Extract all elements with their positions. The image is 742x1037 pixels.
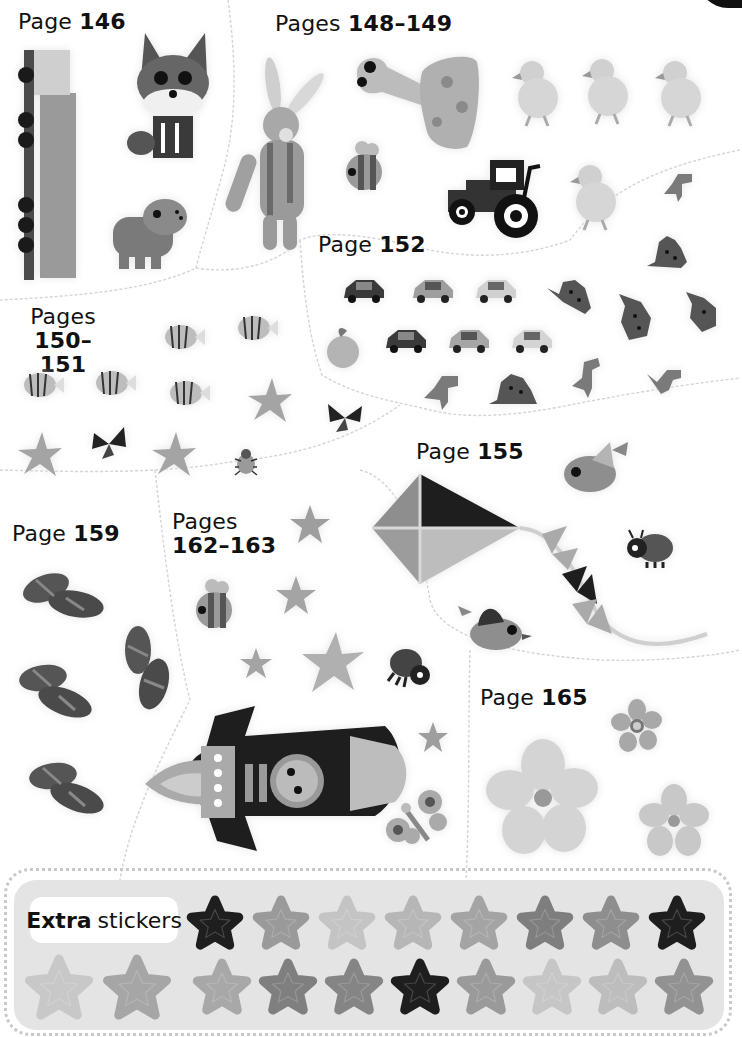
flower-medium-sticker[interactable] [640,785,708,857]
fox-sticker[interactable] [125,28,220,158]
t-rex-sticker[interactable] [660,170,694,204]
extra-star-sticker[interactable] [460,959,512,1017]
extra-star-sticker[interactable] [454,896,504,952]
butterfly-sticker[interactable] [90,425,128,463]
extra-stars-row-1 [190,892,720,954]
glitter-star-sticker[interactable] [290,505,330,543]
section-label-p146: Page 146 [18,10,126,34]
t-rex-sticker[interactable] [570,356,604,400]
train-sticker[interactable] [18,45,80,280]
stegosaurus-sticker[interactable] [682,290,722,336]
sandals-sticker[interactable] [18,566,108,626]
beetle-sticker[interactable] [231,447,261,477]
apple-sticker[interactable] [325,325,361,369]
stegosaurus-sticker[interactable] [487,372,539,408]
bee-sticker[interactable] [344,140,384,192]
section-label-p152: Page 152 [318,233,426,257]
ladybird-sticker[interactable] [625,528,677,568]
stegosaurus-sticker[interactable] [545,278,593,318]
extra-star-sticker[interactable] [526,959,578,1017]
duckling-sticker[interactable] [512,58,562,128]
extra-star-sticker[interactable] [322,896,372,952]
extra-star-sticker[interactable] [190,896,240,952]
section-label-p162: Pages 162–163 [172,510,276,558]
fish-sticker[interactable] [236,313,278,343]
glitter-star-sticker[interactable] [276,576,316,614]
extra-star-sticker[interactable] [652,896,702,952]
section-label-p150: Pages 150–151 [18,305,108,377]
duckling-sticker[interactable] [655,58,705,128]
sandals-sticker[interactable] [25,758,110,818]
stegosaurus-sticker[interactable] [645,232,689,272]
kite-sticker[interactable] [372,474,712,664]
bird-sticker[interactable] [556,440,632,496]
fish-sticker[interactable] [94,368,136,398]
extra-star-sticker[interactable] [388,896,438,952]
stegosaurus-sticker[interactable] [615,292,655,344]
extra-star-sticker[interactable] [658,959,710,1017]
fish-sticker[interactable] [163,322,205,352]
hippo-sticker[interactable] [105,192,190,272]
butterfly-sticker[interactable] [326,400,364,436]
extra-star-sticker[interactable] [28,955,90,1023]
fish-sticker[interactable] [168,378,210,408]
mushroom-snail-sticker[interactable] [352,52,492,152]
starfish-sticker[interactable] [152,432,196,476]
flower-small-sticker[interactable] [612,700,662,752]
tractor-sticker[interactable] [448,158,548,238]
starfish-sticker[interactable] [18,432,62,476]
duckling-sticker[interactable] [582,56,632,126]
car-white-sticker[interactable] [474,276,518,304]
fish-sticker[interactable] [22,370,64,400]
section-label-p159: Page 159 [12,522,120,546]
extra-star-sticker[interactable] [106,955,168,1023]
glitter-star-sticker[interactable] [418,722,448,752]
bird-sticker[interactable] [456,596,532,654]
section-label-p155: Page 155 [416,440,524,464]
car-dark-sticker[interactable] [384,326,428,354]
extra-star-sticker[interactable] [394,959,446,1017]
sandals-sticker[interactable] [15,660,100,720]
extra-star-sticker[interactable] [262,959,314,1017]
t-rex-sticker[interactable] [645,364,685,396]
duckling-sticker[interactable] [570,162,620,232]
knitted-bunny-sticker[interactable] [225,55,340,255]
car-silver-sticker[interactable] [447,326,491,354]
extra-star-sticker[interactable] [586,896,636,952]
extra-star-sticker[interactable] [520,896,570,952]
car-white-sticker[interactable] [510,326,554,354]
extra-stars-row-2 [28,955,718,1025]
extra-star-sticker[interactable] [196,959,248,1017]
section-label-p165: Page 165 [480,686,588,710]
bee-sticker[interactable] [194,578,234,630]
glitter-star-sticker[interactable] [240,648,272,678]
sandals-sticker[interactable] [118,622,174,712]
ladybird-sticker[interactable] [386,645,432,689]
extra-star-sticker[interactable] [256,896,306,952]
car-silver-sticker[interactable] [411,276,455,304]
starfish-sticker[interactable] [248,378,292,422]
flower-large-sticker[interactable] [488,740,598,855]
extra-star-sticker[interactable] [328,959,380,1017]
t-rex-sticker[interactable] [422,372,462,412]
section-label-p148: Pages 148–149 [275,12,452,36]
extra-stickers-label: Extrastickers [30,897,178,943]
extra-star-sticker[interactable] [592,959,644,1017]
car-dark-sticker[interactable] [342,276,386,304]
rocket-sticker[interactable] [145,706,415,856]
glitter-star-sticker[interactable] [302,632,364,692]
